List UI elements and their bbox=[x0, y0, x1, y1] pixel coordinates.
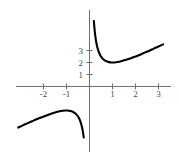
y-axis-tick-labels: 1 2 3 bbox=[79, 46, 84, 80]
function-plot-figure: -2 -1 1 2 3 1 2 3 bbox=[0, 0, 179, 159]
x-tick-label-1: 1 bbox=[110, 89, 115, 99]
y-tick-label-3: 3 bbox=[79, 46, 84, 56]
x-tick-label--1: -1 bbox=[63, 89, 71, 99]
y-tick-label-2: 2 bbox=[79, 58, 84, 68]
x-tick-label-3: 3 bbox=[156, 89, 161, 99]
x-tick-label-2: 2 bbox=[133, 89, 138, 99]
y-tick-label-1: 1 bbox=[79, 70, 84, 80]
plot-canvas: -2 -1 1 2 3 1 2 3 bbox=[0, 0, 179, 159]
x-tick-label--2: -2 bbox=[40, 89, 48, 99]
